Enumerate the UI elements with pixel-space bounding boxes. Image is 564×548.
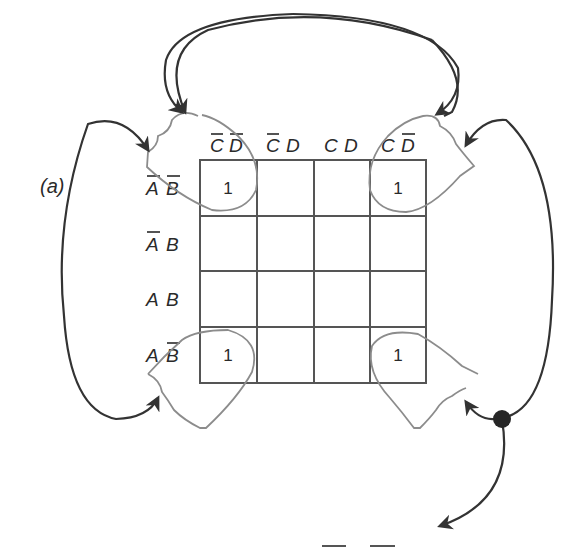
junction-dot [493,410,511,428]
arrow-right-bottom [502,300,552,418]
svg-text:A: A [145,178,159,199]
col-header-cbar-d: C D [266,134,300,156]
arrow-top-a [165,14,293,112]
cell-3-3: 1 [393,346,402,365]
loop-bottom-left [148,330,254,428]
loop-top-right [369,116,474,212]
row-headers: A B A B A B A B [145,176,180,366]
figure-label: (a) [40,175,64,197]
svg-text:D: D [286,135,300,156]
svg-text:B: B [166,234,179,255]
row-header-abar-b: A B [145,232,179,255]
loop-top-left [147,113,257,211]
cell-0-3: 1 [393,179,402,198]
col-header-c-d: C D [324,135,358,156]
svg-text:C: C [266,135,280,156]
arrow-to-result [440,420,504,526]
column-headers: C D C D C D C D [210,134,415,156]
svg-text:A: A [145,345,159,366]
svg-text:C: C [210,135,224,156]
arrow-dot-to-loop [466,402,494,419]
arrow-top-b [293,14,459,114]
loop-bottom-right [371,333,478,429]
kmap-grid [200,160,426,383]
svg-text:B: B [166,289,179,310]
svg-text:D: D [344,135,358,156]
row-header-a-b: A B [145,289,179,310]
svg-text:A: A [145,234,159,255]
arrow-left-top [62,121,148,316]
arrow-top [176,17,457,116]
svg-text:A: A [145,289,159,310]
arrow-left-bottom [64,316,158,419]
svg-text:D: D [401,135,415,156]
svg-text:C: C [381,135,395,156]
cell-0-0: 1 [223,179,232,198]
kmap-diagram: (a) C D C D C D C D A B [0,0,564,548]
cell-3-0: 1 [223,346,232,365]
arrow-right-top [466,120,553,300]
svg-text:C: C [324,135,338,156]
